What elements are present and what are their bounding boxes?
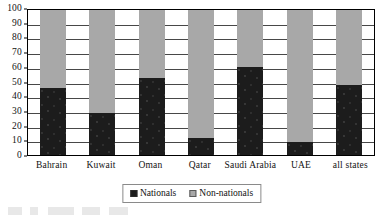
bar-stack bbox=[287, 10, 313, 155]
x-tick-label: Oman bbox=[126, 158, 175, 174]
bar-segment-non-nationals bbox=[287, 10, 313, 142]
bar-stack bbox=[89, 10, 115, 155]
legend-label-non-nationals: Non-nationals bbox=[199, 187, 253, 199]
x-axis: BahrainKuwaitOmanQatarSaudi ArabiaUAEall… bbox=[27, 158, 375, 174]
chart-legend: Nationals Non-nationals bbox=[122, 184, 261, 203]
bar-segment-nationals bbox=[188, 138, 214, 155]
cropped-caption-strip bbox=[8, 207, 208, 215]
bar-segment-non-nationals bbox=[89, 10, 115, 113]
bar-stack bbox=[188, 10, 214, 155]
bar-group-bahrain bbox=[28, 10, 77, 155]
y-tick-label: 100 bbox=[7, 4, 22, 14]
bar-group-all-states bbox=[325, 10, 374, 155]
x-tick-label: UAE bbox=[276, 158, 325, 174]
legend-label-nationals: Nationals bbox=[140, 187, 176, 199]
bar-group-kuwait bbox=[77, 10, 126, 155]
black-square-icon bbox=[130, 190, 137, 197]
bar-stack bbox=[139, 10, 165, 155]
x-tick-label: all states bbox=[326, 158, 375, 174]
y-axis: 1009080706050403020100 bbox=[0, 9, 25, 156]
y-tick-label: 50 bbox=[12, 78, 22, 88]
bar-segment-nationals bbox=[237, 67, 263, 155]
bar-segment-non-nationals bbox=[188, 10, 214, 138]
x-tick-label: Qatar bbox=[175, 158, 224, 174]
bar-group-saudi-arabia bbox=[226, 10, 275, 155]
bar-group-qatar bbox=[176, 10, 225, 155]
x-tick-label: Bahrain bbox=[27, 158, 76, 174]
bar-segment-nationals bbox=[40, 88, 66, 155]
bar-segment-nationals bbox=[139, 78, 165, 155]
x-tick-label: Kuwait bbox=[76, 158, 125, 174]
bar-stack bbox=[40, 10, 66, 155]
y-tick-label: 70 bbox=[12, 48, 22, 58]
bar-group-oman bbox=[127, 10, 176, 155]
gray-square-icon bbox=[189, 190, 196, 197]
y-tick-label: 80 bbox=[12, 34, 22, 44]
y-tick-label: 10 bbox=[12, 137, 22, 147]
bar-segment-nationals bbox=[336, 85, 362, 155]
bar-stack bbox=[336, 10, 362, 155]
bar-segment-non-nationals bbox=[237, 10, 263, 67]
plot-area bbox=[27, 9, 375, 156]
y-tick-label: 90 bbox=[12, 19, 22, 29]
bar-stack bbox=[237, 10, 263, 155]
legend-item-non-nationals: Non-nationals bbox=[189, 187, 253, 199]
stacked-bar-chart: 1009080706050403020100 BahrainKuwaitOman… bbox=[0, 0, 383, 216]
bar-segment-non-nationals bbox=[336, 10, 362, 85]
bar-segment-non-nationals bbox=[40, 10, 66, 88]
plot-wrap bbox=[27, 9, 375, 156]
bar-segment-nationals bbox=[89, 113, 115, 155]
x-tick-label: Saudi Arabia bbox=[225, 158, 277, 174]
y-tick-label: 20 bbox=[12, 122, 22, 132]
bar-group-uae bbox=[275, 10, 324, 155]
y-tick-label: 40 bbox=[12, 92, 22, 102]
y-tick-label: 60 bbox=[12, 63, 22, 73]
bars-layer bbox=[28, 10, 374, 155]
legend-item-nationals: Nationals bbox=[130, 187, 176, 199]
y-tick-label: 30 bbox=[12, 107, 22, 117]
y-tick-label: 0 bbox=[17, 151, 22, 161]
bar-segment-nationals bbox=[287, 142, 313, 155]
bar-segment-non-nationals bbox=[139, 10, 165, 78]
